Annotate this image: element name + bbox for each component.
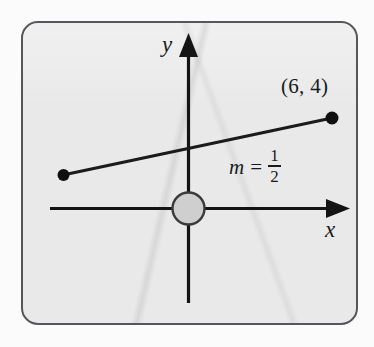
- slope-denominator: 2: [268, 168, 281, 185]
- plotted-line: [63, 118, 332, 175]
- figure-stage: y x (6, 4) m = 1 2: [0, 0, 374, 347]
- y-axis-arrowhead: [179, 33, 198, 57]
- point-coordinate-label: (6, 4): [281, 76, 328, 97]
- origin-circle-marker: [173, 193, 205, 225]
- slope-label: m = 1 2: [229, 148, 281, 186]
- line-endpoint-left-dot: [58, 169, 70, 181]
- slope-numerator: 1: [268, 147, 281, 164]
- slope-fraction: 1 2: [268, 147, 281, 185]
- coordinate-plane-drawing: [0, 0, 374, 347]
- slope-equals-sign: =: [250, 157, 262, 178]
- slope-variable: m: [229, 157, 244, 178]
- x-axis-label: x: [325, 218, 335, 241]
- y-axis-label: y: [162, 33, 172, 56]
- line-endpoint-right-dot: [326, 112, 339, 125]
- x-axis-arrowhead: [326, 199, 350, 218]
